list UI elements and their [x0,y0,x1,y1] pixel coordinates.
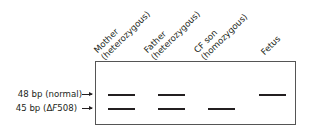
lane-label-mother: Mother (heterozygous) [92,2,152,62]
band-mother-48bp [108,94,135,96]
band-cf-son-45bp [208,108,235,110]
lane-label-fetus: Fetus [259,34,282,57]
size-label-45bp: 45 bp (ΔF508) [16,103,77,113]
band-father-45bp [158,108,185,110]
lane-label-cf-son: CF son (homozygous) [192,5,249,62]
gel-box [95,61,296,125]
lane-label-father: Father (heterozygous) [142,2,202,62]
band-mother-45bp [108,108,135,110]
band-father-48bp [158,94,185,96]
size-label-48bp: 48 bp (normal) [18,89,82,99]
arrow-45bp-icon [82,108,92,109]
lane-name: Fetus [259,34,282,57]
band-fetus-48bp [259,94,286,96]
arrow-48bp-icon [82,94,92,95]
